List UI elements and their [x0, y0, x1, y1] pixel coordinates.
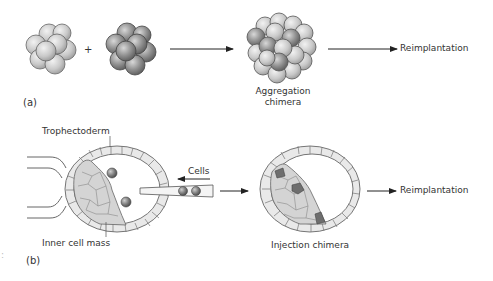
- cells-label: Cells: [188, 166, 210, 177]
- aggregation-chimera-label-line2: chimera: [245, 97, 321, 108]
- panel-b-tag: (b): [26, 255, 40, 266]
- stray-mark: :: [1, 250, 4, 261]
- inner-cell-mass-label: Inner cell mass: [42, 238, 110, 249]
- holding-pipette-icon: [27, 157, 66, 218]
- aggregation-chimera-label-line1: Aggregation: [245, 86, 321, 97]
- aggregation-chimera-icon: [247, 13, 316, 83]
- plus-sign: +: [84, 44, 92, 55]
- injection-chimera-label: Injection chimera: [271, 240, 349, 251]
- dark-morula-icon: [106, 23, 156, 75]
- trophectoderm-label: Trophectoderm: [42, 126, 110, 137]
- panel-a-tag: (a): [23, 97, 37, 108]
- aggregation-chimera-label: Aggregation chimera: [245, 86, 321, 108]
- injection-chimera-icon: [260, 146, 360, 232]
- reimplantation-label-b: Reimplantation: [400, 185, 468, 196]
- reimplantation-label-a: Reimplantation: [400, 43, 468, 54]
- light-morula-icon: [26, 24, 76, 74]
